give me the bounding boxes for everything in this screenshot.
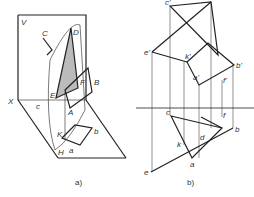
label-e: e bbox=[144, 168, 149, 177]
label-K: K bbox=[57, 130, 63, 139]
label-a: a bbox=[69, 146, 74, 155]
label-c-prime: c' bbox=[165, 0, 171, 7]
label-c: c bbox=[36, 102, 40, 111]
label-C: C bbox=[42, 29, 48, 38]
diagram: V X C D E F B A K c a b H a) c' e' k' b'… bbox=[0, 0, 254, 197]
caption-b: b) bbox=[187, 178, 194, 187]
label-F: F bbox=[80, 78, 86, 87]
label-b: b bbox=[235, 125, 240, 134]
label-E: E bbox=[50, 91, 56, 100]
label-d: d bbox=[200, 133, 205, 142]
label-H: H bbox=[58, 148, 64, 157]
figure-b bbox=[136, 2, 254, 172]
label-b-prime: b' bbox=[236, 61, 242, 70]
label-X: X bbox=[7, 97, 14, 106]
label-c: c bbox=[166, 108, 170, 117]
caption-a: a) bbox=[75, 178, 82, 187]
figure-a bbox=[18, 15, 126, 158]
label-k: k bbox=[177, 140, 182, 149]
label-b: b bbox=[94, 127, 99, 136]
label-a: a bbox=[190, 160, 195, 169]
label-V: V bbox=[21, 18, 27, 27]
label-k-prime: k' bbox=[185, 52, 191, 61]
label-f-prime: f' bbox=[223, 76, 227, 85]
label-A: A bbox=[67, 108, 73, 117]
label-D: D bbox=[73, 28, 79, 37]
label-a-prime: a' bbox=[193, 73, 199, 82]
label-e-prime: e' bbox=[144, 48, 150, 57]
label-f: f bbox=[223, 111, 226, 120]
label-B: B bbox=[94, 78, 100, 87]
